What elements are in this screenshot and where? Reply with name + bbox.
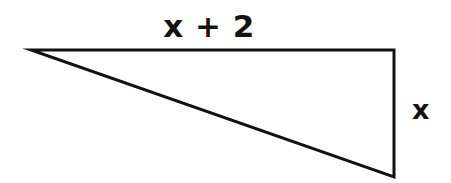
top-side-length-label: x + 2 <box>0 11 418 42</box>
right-side-length-label: x <box>405 96 437 123</box>
triangle-outline <box>31 50 394 177</box>
geometry-figure: x + 2 x <box>0 0 451 183</box>
